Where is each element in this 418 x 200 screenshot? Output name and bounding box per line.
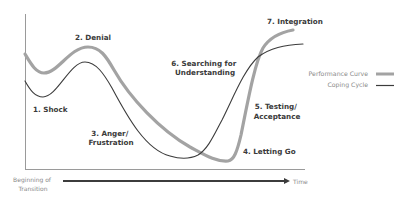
legend-coping-label: Coping Cycle: [328, 81, 369, 89]
label-denial: 2. Denial: [75, 33, 111, 42]
label-testing-line2: Acceptance: [254, 112, 301, 121]
time-start-line1: Beginning of: [13, 176, 52, 184]
transition-curve-diagram: 1. Shock 2. Denial 3. Anger/ Frustration…: [0, 0, 418, 200]
label-anger: 3. Anger/ Frustration: [88, 129, 133, 147]
legend: Performance Curve Coping Cycle: [309, 70, 394, 89]
label-searching: 6. Searching for Understanding: [171, 59, 238, 77]
label-searching-line1: 6. Searching for: [171, 59, 236, 68]
label-anger-line1: 3. Anger/: [91, 129, 128, 138]
label-testing-line1: 5. Testing/: [255, 102, 297, 111]
performance-curve: [25, 30, 293, 161]
time-start-line2: Transition: [17, 185, 47, 192]
label-shock: 1. Shock: [33, 105, 68, 114]
legend-performance-label: Performance Curve: [309, 70, 369, 77]
label-letting-go: 4. Letting Go: [243, 147, 296, 156]
label-anger-line2: Frustration: [88, 138, 133, 147]
time-end-label: Time: [292, 178, 308, 185]
time-start-label: Beginning of Transition: [13, 176, 53, 192]
label-testing: 5. Testing/ Acceptance: [254, 102, 301, 121]
label-integration: 7. Integration: [267, 17, 323, 26]
time-axis: Beginning of Transition Time: [13, 176, 308, 192]
arrow-right-icon: [284, 178, 290, 184]
label-searching-line2: Understanding: [175, 68, 235, 77]
